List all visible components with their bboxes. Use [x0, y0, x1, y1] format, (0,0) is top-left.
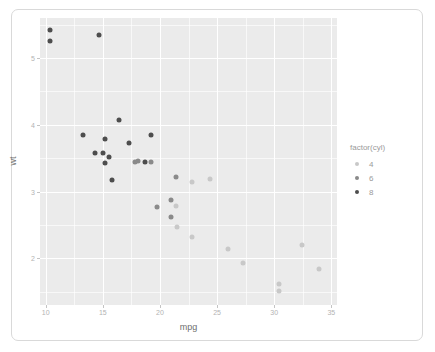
data-point: [109, 178, 114, 183]
data-point: [208, 176, 213, 181]
gridline-major-vertical: [274, 18, 275, 305]
data-point: [92, 151, 97, 156]
data-point: [143, 160, 148, 165]
gridline-minor-vertical: [74, 18, 75, 305]
x-tick-mark: [160, 305, 161, 308]
gridline-minor-horizontal: [40, 25, 337, 26]
legend-item[interactable]: 8: [350, 185, 420, 199]
legend-item[interactable]: 6: [350, 171, 420, 185]
gridline-major-vertical: [46, 18, 47, 305]
legend-dot-icon: [355, 176, 360, 181]
data-point: [241, 260, 246, 265]
x-tick-label: 20: [156, 309, 164, 316]
scatter-plot: 1015202530352345 mpg wt factor(cyl) 468: [0, 0, 435, 352]
gridline-major-horizontal: [40, 58, 337, 59]
gridline-minor-horizontal: [40, 225, 337, 226]
data-point: [127, 140, 132, 145]
x-tick-mark: [103, 305, 104, 308]
data-point: [148, 160, 153, 165]
legend-key-swatch: [350, 157, 364, 171]
gridline-major-vertical: [160, 18, 161, 305]
y-tick-label: 5: [31, 55, 35, 62]
legend: factor(cyl) 468: [350, 143, 420, 199]
x-tick-label: 35: [327, 309, 335, 316]
gridline-major-vertical: [217, 18, 218, 305]
data-point: [173, 175, 178, 180]
gridline-minor-vertical: [189, 18, 190, 305]
x-tick-label: 25: [213, 309, 221, 316]
x-tick-mark: [217, 305, 218, 308]
chart-screenshot: 1015202530352345 mpg wt factor(cyl) 468: [0, 0, 435, 352]
gridline-major-horizontal: [40, 258, 337, 259]
data-point: [175, 225, 180, 230]
data-point: [148, 133, 153, 138]
legend-key-swatch: [350, 185, 364, 199]
data-point: [132, 160, 137, 165]
data-point: [316, 267, 321, 272]
data-point: [169, 197, 174, 202]
x-tick-mark: [331, 305, 332, 308]
gridline-minor-horizontal: [40, 292, 337, 293]
legend-dot-icon: [355, 162, 360, 167]
y-axis-title: wt: [8, 157, 18, 166]
data-point: [276, 281, 281, 286]
legend-item-label: 8: [369, 188, 373, 197]
data-point: [106, 154, 111, 159]
data-point: [100, 151, 105, 156]
y-tick-label: 4: [31, 121, 35, 128]
data-point: [169, 214, 174, 219]
gridline-major-horizontal: [40, 192, 337, 193]
gridline-major-horizontal: [40, 125, 337, 126]
legend-item-label: 6: [369, 174, 373, 183]
y-tick-mark: [37, 125, 40, 126]
x-tick-label: 30: [270, 309, 278, 316]
x-tick-mark: [274, 305, 275, 308]
gridline-major-vertical: [331, 18, 332, 305]
data-point: [154, 204, 159, 209]
plot-panel: [40, 18, 337, 305]
data-point: [299, 242, 304, 247]
data-point: [173, 204, 178, 209]
legend-items: 468: [350, 157, 420, 199]
legend-dot-icon: [355, 190, 360, 195]
data-point: [48, 27, 53, 32]
legend-item[interactable]: 4: [350, 157, 420, 171]
gridline-minor-horizontal: [40, 158, 337, 159]
y-tick-mark: [37, 58, 40, 59]
x-tick-mark: [46, 305, 47, 308]
data-point: [103, 137, 108, 142]
data-point: [116, 118, 121, 123]
legend-title: factor(cyl): [350, 143, 420, 152]
data-point: [226, 246, 231, 251]
gridline-minor-vertical: [303, 18, 304, 305]
data-point: [97, 33, 102, 38]
y-tick-mark: [37, 258, 40, 259]
y-tick-label: 3: [31, 188, 35, 195]
gridline-minor-horizontal: [40, 91, 337, 92]
data-point: [276, 288, 281, 293]
y-tick-mark: [37, 192, 40, 193]
y-tick-label: 2: [31, 255, 35, 262]
data-point: [189, 234, 194, 239]
x-axis-title: mpg: [40, 322, 337, 332]
data-point: [48, 39, 53, 44]
x-tick-label: 10: [42, 309, 50, 316]
data-point: [189, 179, 194, 184]
data-point: [81, 133, 86, 138]
legend-key-swatch: [350, 171, 364, 185]
x-tick-label: 15: [99, 309, 107, 316]
data-point: [103, 160, 108, 165]
legend-item-label: 4: [369, 160, 373, 169]
